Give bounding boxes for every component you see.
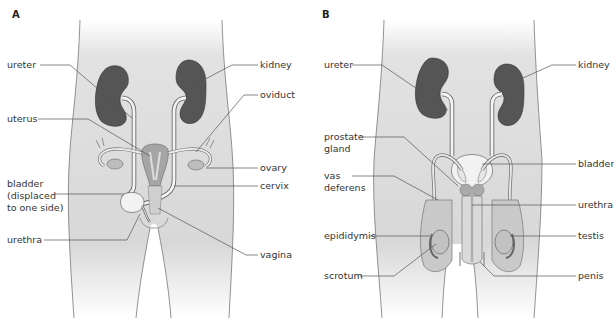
label-vagina: vagina [260,249,292,261]
label-kidney-male: kidney [578,59,610,71]
panel-letter-a: A [12,9,20,20]
label-bladder-line2: (displaced [7,190,63,202]
label-uterus: uterus [7,113,37,125]
label-penis: penis [578,270,604,282]
left-testis [431,230,449,254]
label-prostate-line1: prostate [324,131,364,143]
label-scrotum: scrotum [324,270,363,282]
vagina [148,186,162,214]
bladder [121,192,144,212]
label-vas-deferens: vas deferens [324,170,366,194]
label-prostate-gland: prostate gland [324,131,364,155]
label-bladder-male: bladder [578,158,614,170]
label-bladder-female: bladder (displaced to one side) [7,178,63,214]
label-bladder-line1: bladder [7,178,63,190]
left-ovary [107,159,123,169]
panel-letter-b: B [322,9,330,20]
label-oviduct: oviduct [260,89,295,101]
panel-female-urogenital: A ureter uterus bladder (displaced to on… [0,0,306,322]
label-ureter-male: ureter [324,59,353,71]
right-ovary [188,160,204,170]
label-bladder-line3: to one side) [7,202,63,214]
label-ovary: ovary [260,162,287,174]
panel-male-urogenital: B ureter prostate gland vas deferens epi… [306,0,612,322]
prostate-gland [460,184,472,196]
label-testis: testis [578,230,604,242]
label-urethra-male: urethra [578,199,613,211]
label-urethra-female: urethra [7,234,42,246]
label-vas-line1: vas [324,170,366,182]
label-epididymis: epididymis [324,230,376,242]
label-prostate-line2: gland [324,143,364,155]
label-vas-line2: deferens [324,182,366,194]
right-testis [495,230,513,254]
female-anatomy-illustration [0,0,306,322]
label-kidney-female: kidney [260,59,292,71]
label-cervix: cervix [260,180,289,192]
label-ureter-female: ureter [7,59,36,71]
